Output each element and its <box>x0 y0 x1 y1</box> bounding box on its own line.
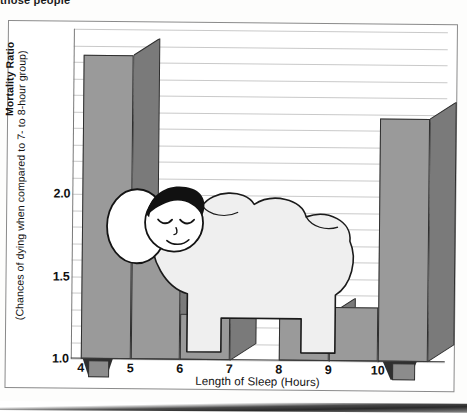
page-bottom-edge <box>0 401 467 413</box>
bar <box>130 255 180 359</box>
y-tick-label: 1.5 <box>53 269 70 283</box>
x-tick-label: 8 <box>275 363 282 377</box>
bar <box>279 314 329 361</box>
x-tick-label: 7 <box>226 362 233 376</box>
y-axis-title: Mortality Ratio <box>3 42 16 117</box>
bar <box>81 55 133 359</box>
bar <box>378 119 430 362</box>
y-tick-label: 1.0 <box>52 351 69 365</box>
x-tick-label: 10 <box>371 363 385 377</box>
bar-chart: Mortality Ratio (Chances of dying when c… <box>4 20 458 392</box>
gridline <box>74 45 448 50</box>
x-tick-label: 9 <box>325 363 332 377</box>
bar <box>328 307 378 362</box>
x-tick-label: 6 <box>176 362 183 376</box>
y-axis-ticks: 1.01.52.0 <box>25 28 72 358</box>
y-tick-label: 2.0 <box>53 186 70 200</box>
plot-area <box>71 29 448 363</box>
bar <box>180 313 230 360</box>
bar-3d-side <box>428 102 459 364</box>
x-tick-label: 4 <box>77 361 84 375</box>
x-tick-label: 5 <box>127 361 134 375</box>
page-top-caption: those people <box>0 0 300 8</box>
bar-3d-side <box>229 297 258 362</box>
